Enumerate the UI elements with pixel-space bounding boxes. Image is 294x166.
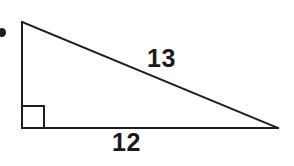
- right-angle-marker-icon: [22, 106, 44, 128]
- triangle-figure: 13 12: [0, 0, 294, 166]
- triangle-drawing-canvas: [0, 0, 294, 166]
- base-length-label: 12: [112, 130, 141, 155]
- hypotenuse-length-label: 13: [147, 46, 176, 71]
- triangle-hypotenuse: [22, 22, 278, 128]
- list-bullet-dot: [0, 28, 6, 37]
